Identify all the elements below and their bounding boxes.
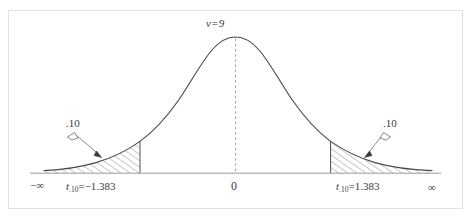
left-critical-value-label: t.10=−1.383: [66, 181, 116, 193]
left-tail-shaded-region: [40, 130, 144, 176]
degrees-of-freedom-label: v=9: [206, 18, 224, 29]
negative-infinity-tick-label: −∞: [30, 180, 44, 191]
right-area-leader-arrow: [365, 133, 391, 158]
t-density-curve: [44, 37, 432, 171]
right-tail-area-label: .10: [383, 118, 397, 129]
left-tail-area-label: .10: [66, 118, 80, 129]
left-critical-value: −1.383: [85, 180, 116, 192]
figure-container: v=9 .10 .10 −∞ 0 ∞ t.10=−1.383 t.10=1.38…: [0, 0, 471, 219]
right-critical-value-label: t.10=1.383: [336, 181, 379, 193]
right-critical-value: 1.383: [355, 180, 380, 192]
zero-tick-label: 0: [231, 180, 237, 192]
left-area-leader-arrow: [68, 133, 102, 158]
positive-infinity-tick-label: ∞: [428, 182, 436, 193]
